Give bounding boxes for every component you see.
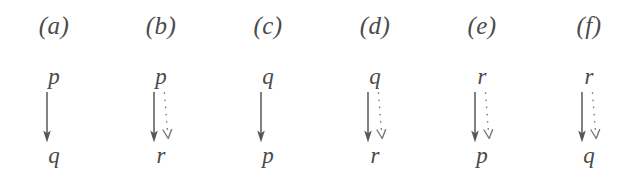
diagram-panel-d: (d) q r [321,0,429,181]
consequent-term: p [214,143,322,169]
dotted-down-arrow [163,93,172,139]
diagram-panel-a: (a) p q [0,0,108,181]
diagram-panel-c: (c) q p [214,0,322,181]
antecedent-term: q [321,64,429,90]
solid-down-arrow [43,92,51,143]
consequent-term: q [0,143,108,169]
diagram-panel-f: (f) r q [535,0,643,181]
panel-label: (a) [0,11,108,41]
dotted-down-arrow [484,93,493,139]
solid-down-arrow [257,92,265,143]
solid-down-arrow [150,92,158,143]
arrow-group [535,92,643,144]
consequent-term: q [535,143,643,169]
diagram-panel-b: (b) p r [107,0,215,181]
consequent-term: p [428,143,536,169]
arrow-group [321,92,429,144]
antecedent-term: r [428,64,536,90]
consequent-term: r [107,143,215,169]
arrow-group [428,92,536,144]
antecedent-term: q [214,64,322,90]
antecedent-term: p [107,64,215,90]
panel-label: (b) [107,11,215,41]
antecedent-term: r [535,64,643,90]
arrow-group [214,92,322,144]
solid-down-arrow [364,92,372,143]
panel-label: (c) [214,11,322,41]
consequent-term: r [321,143,429,169]
dotted-down-arrow [377,93,386,139]
dotted-down-arrow [591,93,600,139]
panel-label: (d) [321,11,429,41]
solid-down-arrow [471,92,479,143]
antecedent-term: p [0,64,108,90]
arrow-group [107,92,215,144]
implication-diagram-figure: (a) p q (b) p [0,0,643,181]
solid-down-arrow [578,92,586,143]
diagram-panel-e: (e) r p [428,0,536,181]
panel-label: (f) [535,11,643,41]
arrow-group [0,92,108,144]
panel-label: (e) [428,11,536,41]
